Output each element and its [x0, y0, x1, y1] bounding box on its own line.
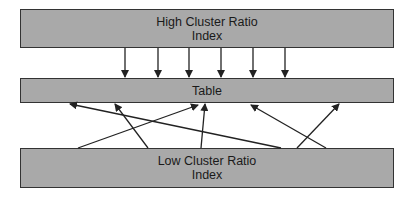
arrow-icon [70, 104, 281, 148]
arrow-icon [251, 105, 326, 148]
arrows-layer [0, 0, 412, 199]
arrow-icon [201, 104, 205, 148]
arrow-icon [297, 104, 339, 148]
low-index-to-table-arrows [70, 104, 339, 148]
high-index-to-table-arrows [125, 48, 285, 77]
arrow-icon [115, 104, 148, 148]
